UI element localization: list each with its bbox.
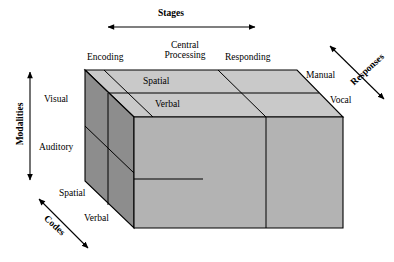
stage-label-responding: Responding	[225, 53, 270, 63]
code-label-spatial: Spatial	[59, 189, 85, 199]
top-face-label-spatial: Spatial	[143, 77, 169, 87]
front-face	[134, 117, 343, 228]
stage-label-encoding: Encoding	[87, 53, 123, 63]
diagram-canvas: Stages Encoding Central Processing Respo…	[0, 0, 394, 262]
stage-label-central-processing: Central Processing	[152, 41, 218, 61]
axis-label-stages: Stages	[158, 9, 184, 19]
code-label-verbal: Verbal	[84, 214, 109, 224]
response-label-vocal: Vocal	[330, 96, 351, 106]
modality-label-visual: Visual	[44, 95, 68, 105]
axis-label-modalities: Modalities	[16, 94, 26, 154]
response-label-manual: Manual	[306, 71, 335, 81]
modality-label-auditory: Auditory	[39, 143, 73, 153]
top-face-label-verbal: Verbal	[155, 100, 180, 110]
stage-label-central-processing-line2: Processing	[152, 51, 218, 61]
